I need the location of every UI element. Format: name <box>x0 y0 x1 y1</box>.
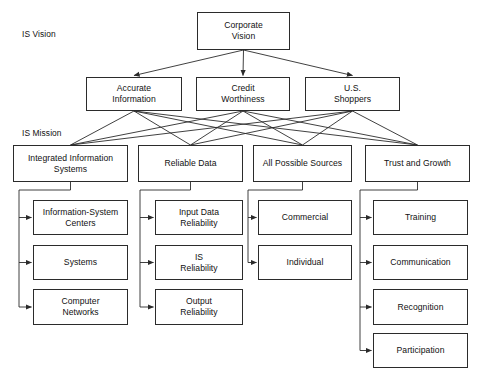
node-systems[interactable]: Systems <box>33 245 128 280</box>
node-label: IS Reliability <box>180 252 217 274</box>
edge-corporate-vision-to-us-shoppers <box>244 50 353 76</box>
tier-label-is-mission: IS Mission <box>22 128 62 138</box>
node-label: Integrated Information Systems <box>28 153 113 175</box>
node-is-reliability[interactable]: IS Reliability <box>155 245 243 280</box>
node-information-system-centers[interactable]: Information-System Centers <box>33 200 128 235</box>
node-label: Individual <box>287 257 324 268</box>
node-integrated-information-systems[interactable]: Integrated Information Systems <box>13 145 128 182</box>
node-trust-and-growth[interactable]: Trust and Growth <box>365 145 470 182</box>
node-label: Systems <box>64 257 97 268</box>
root-to-vision-connectors <box>134 50 353 76</box>
node-label: Training <box>405 212 436 223</box>
edge-corporate-vision-to-accurate-information <box>134 50 244 76</box>
node-credit-worthiness[interactable]: Credit Worthiness <box>196 77 290 111</box>
node-label: Input Data Reliability <box>179 207 219 229</box>
edge-us-shoppers-to-trust-and-growth <box>353 111 418 145</box>
node-label: Accurate Information <box>112 83 156 105</box>
tier-label-is-vision: IS Vision <box>22 29 56 39</box>
edge-credit-worthiness-to-reliable-data <box>191 111 244 145</box>
node-label: Credit Worthiness <box>221 83 264 105</box>
node-input-data-reliability[interactable]: Input Data Reliability <box>155 200 243 235</box>
vision-to-mission-mesh-connectors <box>71 111 418 145</box>
edge-accurate-information-to-reliable-data <box>134 111 191 145</box>
node-accurate-information[interactable]: Accurate Information <box>86 77 182 111</box>
edge-us-shoppers-to-reliable-data <box>191 111 353 145</box>
node-label: U.S. Shoppers <box>334 83 371 105</box>
node-communication[interactable]: Communication <box>373 245 468 280</box>
node-label: Trust and Growth <box>384 158 451 169</box>
node-individual[interactable]: Individual <box>258 245 352 280</box>
node-reliable-data[interactable]: Reliable Data <box>138 145 243 182</box>
edge-accurate-information-to-all-possible-sources <box>134 111 303 145</box>
node-label: Commercial <box>282 212 328 223</box>
edge-credit-worthiness-to-all-possible-sources <box>243 111 303 145</box>
node-label: Communication <box>390 257 450 268</box>
node-output-reliability[interactable]: Output Reliability <box>155 289 243 325</box>
node-label: All Possible Sources <box>263 158 342 169</box>
node-label: Participation <box>397 345 445 356</box>
node-corporate-vision[interactable]: Corporate Vision <box>197 12 290 50</box>
edge-accurate-information-to-integrated-information-systems <box>71 111 135 145</box>
node-label: Reliable Data <box>164 158 216 169</box>
edge-credit-worthiness-to-integrated-information-systems <box>71 111 244 145</box>
node-training[interactable]: Training <box>373 200 468 235</box>
edge-us-shoppers-to-integrated-information-systems <box>71 111 353 145</box>
node-label: Output Reliability <box>180 296 217 318</box>
node-label: Recognition <box>398 302 444 313</box>
is-vision-mission-diagram: IS VisionIS Mission Corporate VisionAccu… <box>0 0 485 391</box>
node-commercial[interactable]: Commercial <box>258 200 352 235</box>
edge-credit-worthiness-to-trust-and-growth <box>243 111 418 145</box>
edge-accurate-information-to-trust-and-growth <box>134 111 418 145</box>
node-label: Information-System Centers <box>43 207 118 229</box>
edge-corporate-vision-to-credit-worthiness <box>243 50 244 76</box>
node-computer-networks[interactable]: Computer Networks <box>33 289 128 325</box>
node-label: Computer Networks <box>61 296 99 318</box>
node-participation[interactable]: Participation <box>373 333 468 368</box>
node-us-shoppers[interactable]: U.S. Shoppers <box>305 77 400 111</box>
node-all-possible-sources[interactable]: All Possible Sources <box>253 145 352 182</box>
edge-us-shoppers-to-all-possible-sources <box>303 111 353 145</box>
node-recognition[interactable]: Recognition <box>373 289 468 325</box>
node-label: Corporate Vision <box>224 20 263 42</box>
